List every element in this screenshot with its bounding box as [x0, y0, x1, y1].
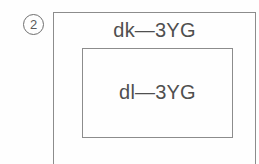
figure-canvas: 2 dk—3YG dl—3YG — [0, 0, 259, 164]
inner-rectangle-label: dl—3YG — [119, 82, 196, 102]
outer-rectangle-label: dk—3YG — [54, 20, 255, 40]
figure-number-marker: 2 — [23, 14, 44, 35]
figure-number-label: 2 — [30, 18, 37, 31]
outer-rectangle: dk—3YG dl—3YG — [53, 12, 256, 164]
inner-rectangle: dl—3YG — [82, 48, 233, 138]
